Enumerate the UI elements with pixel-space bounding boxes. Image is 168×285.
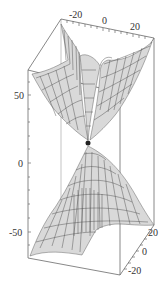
y-axis: 20 0 -20 (124, 227, 158, 276)
y-tick-label: 20 (148, 227, 158, 238)
x-axis: -20 0 20 (67, 9, 145, 39)
surface-lower-lobe (30, 146, 154, 256)
x-tick-label: 0 (102, 15, 107, 26)
z-tick-label: -50 (9, 227, 22, 238)
surface-upper-left-lobe (32, 24, 88, 140)
surface-upper-right-lobe (90, 42, 152, 140)
z-tick-label: 50 (14, 90, 24, 101)
y-tick-label: -20 (128, 265, 141, 276)
x-tick-label: 20 (130, 21, 140, 32)
surface-plot: -20 0 20 50 0 -50 20 0 -20 (0, 0, 168, 285)
z-tick-label: 0 (18, 158, 23, 169)
pinch-point (86, 141, 91, 146)
x-tick-label: -20 (69, 9, 82, 20)
y-tick-label: 0 (142, 246, 147, 257)
